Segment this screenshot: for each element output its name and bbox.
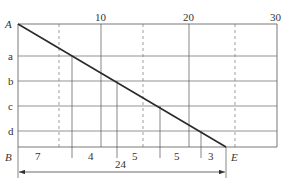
row-label-a: a <box>8 50 13 62</box>
total-dimension-label: 24 <box>115 158 127 170</box>
segment-label-5: 3 <box>208 150 214 162</box>
row-label-b: b <box>8 75 14 87</box>
tick-label-20: 20 <box>183 11 195 23</box>
segment-label-4: 5 <box>174 150 180 162</box>
major-vertical-lines <box>101 24 189 147</box>
tick-label-30: 30 <box>270 11 282 23</box>
point-label-A: A <box>4 18 12 30</box>
segment-label-2: 4 <box>88 150 94 162</box>
segment-label-1: 7 <box>35 150 41 162</box>
point-label-B: B <box>5 151 12 163</box>
segment-label-3: 5 <box>132 150 138 162</box>
grid-frame <box>18 24 277 147</box>
diagonal-line-AE <box>18 24 226 147</box>
tick-label-10: 10 <box>95 11 107 23</box>
row-label-c: c <box>8 100 13 112</box>
point-label-E: E <box>230 151 238 163</box>
row-label-d: d <box>8 125 14 137</box>
row-lines <box>18 56 277 131</box>
grid-diagram: 10 20 30 A B E a b c d 7 4 5 5 3 24 <box>0 0 289 183</box>
minor-dashed-lines <box>59 24 235 147</box>
